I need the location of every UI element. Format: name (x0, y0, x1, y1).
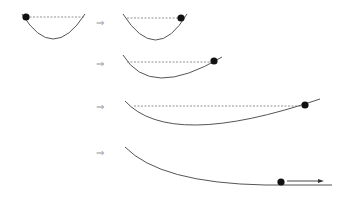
flattening-curve (125, 147, 332, 185)
inclined-plane-diagram (0, 0, 351, 198)
bowl-curve (123, 55, 222, 78)
stage-3 (123, 55, 222, 78)
ball-icon (210, 57, 217, 64)
stage-4 (125, 99, 320, 125)
velocity-arrowhead-icon (318, 179, 324, 183)
bowl-curve (22, 14, 85, 39)
bowl-curve (125, 99, 320, 125)
stage-2 (123, 14, 187, 40)
ball-icon (177, 14, 184, 21)
implies-arrow-icon: ⇒ (96, 148, 104, 158)
implies-arrow-icon: ⇒ (96, 102, 104, 112)
ball-icon (301, 101, 308, 108)
stage-1 (22, 13, 85, 39)
ball-icon (22, 13, 29, 20)
implies-arrow-icon: ⇒ (96, 18, 104, 28)
implies-arrow-icon: ⇒ (96, 59, 104, 69)
ball-icon (277, 178, 284, 185)
stage-5 (125, 147, 332, 186)
